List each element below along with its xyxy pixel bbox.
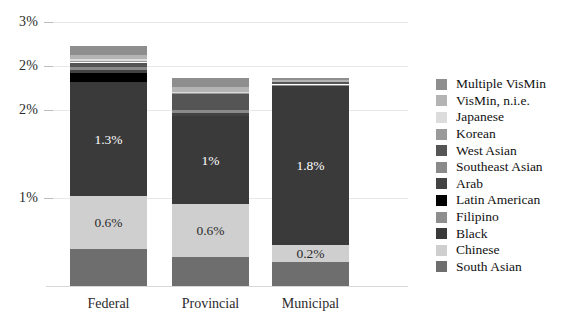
legend-item-label: Filipino <box>456 210 499 224</box>
bar-segment <box>70 82 147 196</box>
bar-segment <box>172 92 249 94</box>
plot-area: 3%2%2%1% 0.6%1.3%0.6%1%0.2%1.8% FederalP… <box>0 0 430 323</box>
bar-segment <box>272 80 349 82</box>
bar-segment <box>172 257 249 286</box>
legend-swatch-icon <box>436 129 447 140</box>
bar-segment <box>70 46 147 55</box>
legend-swatch-icon <box>436 178 447 189</box>
y-tick-mark <box>44 198 53 199</box>
bar-segment <box>70 55 147 59</box>
y-tick-label: 2% <box>0 103 38 117</box>
y-tick-label: 1% <box>0 191 38 205</box>
legend-item-label: Chinese <box>456 243 500 257</box>
legend-item-label: West Asian <box>456 144 517 158</box>
legend-item-label: South Asian <box>456 260 522 274</box>
legend-swatch-icon <box>436 145 447 156</box>
bar-segment <box>172 87 249 91</box>
x-tick-label-municipal: Municipal <box>254 296 367 312</box>
y-tick-mark <box>44 66 53 67</box>
legend-swatch-icon <box>436 112 447 123</box>
legend-item-label: Multiple VisMin <box>456 77 546 91</box>
legend-swatch-icon <box>436 95 447 106</box>
x-tick-label-provincial: Provincial <box>154 296 267 312</box>
bar-segment <box>70 59 147 61</box>
bar-segment <box>272 86 349 244</box>
legend-item[interactable]: Arab <box>436 176 578 193</box>
bar-segment <box>172 92 249 93</box>
bar-segment <box>272 262 349 286</box>
bar-federal: 0.6%1.3% <box>70 22 147 286</box>
legend-item-label: Southeast Asian <box>456 160 543 174</box>
legend-item[interactable]: Latin American <box>436 192 578 209</box>
y-tick-mark <box>44 110 53 111</box>
legend-item[interactable]: Filipino <box>436 209 578 226</box>
bar-segment <box>172 78 249 87</box>
chart-figure: 3%2%2%1% 0.6%1.3%0.6%1%0.2%1.8% FederalP… <box>0 0 578 323</box>
legend-swatch-icon <box>436 195 447 206</box>
bar-segment <box>70 70 147 74</box>
legend-swatch-icon <box>436 261 447 272</box>
bar-segment <box>272 78 349 80</box>
legend-item-label: Latin American <box>456 193 540 207</box>
bar-segment <box>172 110 249 113</box>
y-tick-mark <box>44 22 53 23</box>
legend-item[interactable]: Japanese <box>436 109 578 126</box>
legend-swatch-icon <box>436 79 447 90</box>
bar-provincial: 0.6%1% <box>172 22 249 286</box>
x-axis-line <box>46 286 408 287</box>
legend-swatch-icon <box>436 245 447 256</box>
legend-item[interactable]: VisMin, n.i.e. <box>436 93 578 110</box>
legend-item-label: VisMin, n.i.e. <box>456 94 530 108</box>
bar-segment <box>70 67 147 70</box>
bar-segment <box>272 82 349 85</box>
legend-item[interactable]: Southeast Asian <box>436 159 578 176</box>
legend-swatch-icon <box>436 228 447 239</box>
y-tick-label: 2% <box>0 59 38 73</box>
legend-item[interactable]: Black <box>436 225 578 242</box>
legend-item-label: Arab <box>456 177 483 191</box>
legend-item-label: Japanese <box>456 110 504 124</box>
bar-segment <box>172 94 249 110</box>
bar-segment <box>70 249 147 286</box>
legend-item-label: Black <box>456 227 488 241</box>
legend-item[interactable]: Multiple VisMin <box>436 76 578 93</box>
legend-swatch-icon <box>436 212 447 223</box>
legend-item-label: Korean <box>456 127 496 141</box>
x-tick-label-federal: Federal <box>52 296 165 312</box>
bar-segment <box>272 85 349 87</box>
bar-segment <box>70 73 147 82</box>
bar-segment <box>70 61 147 63</box>
legend-item[interactable]: Korean <box>436 126 578 143</box>
bar-segment <box>172 116 249 204</box>
y-tick-label: 3% <box>0 15 38 29</box>
legend-item[interactable]: South Asian <box>436 259 578 276</box>
legend-swatch-icon <box>436 162 447 173</box>
bar-municipal: 0.2%1.8% <box>272 22 349 286</box>
legend: Multiple VisMinVisMin, n.i.e.JapaneseKor… <box>436 76 578 275</box>
bar-segment <box>70 196 147 249</box>
bar-segment <box>272 245 349 263</box>
bar-segment <box>172 204 249 257</box>
legend-item[interactable]: Chinese <box>436 242 578 259</box>
bar-segment <box>172 113 249 117</box>
bar-segment <box>70 63 147 67</box>
legend-item[interactable]: West Asian <box>436 142 578 159</box>
